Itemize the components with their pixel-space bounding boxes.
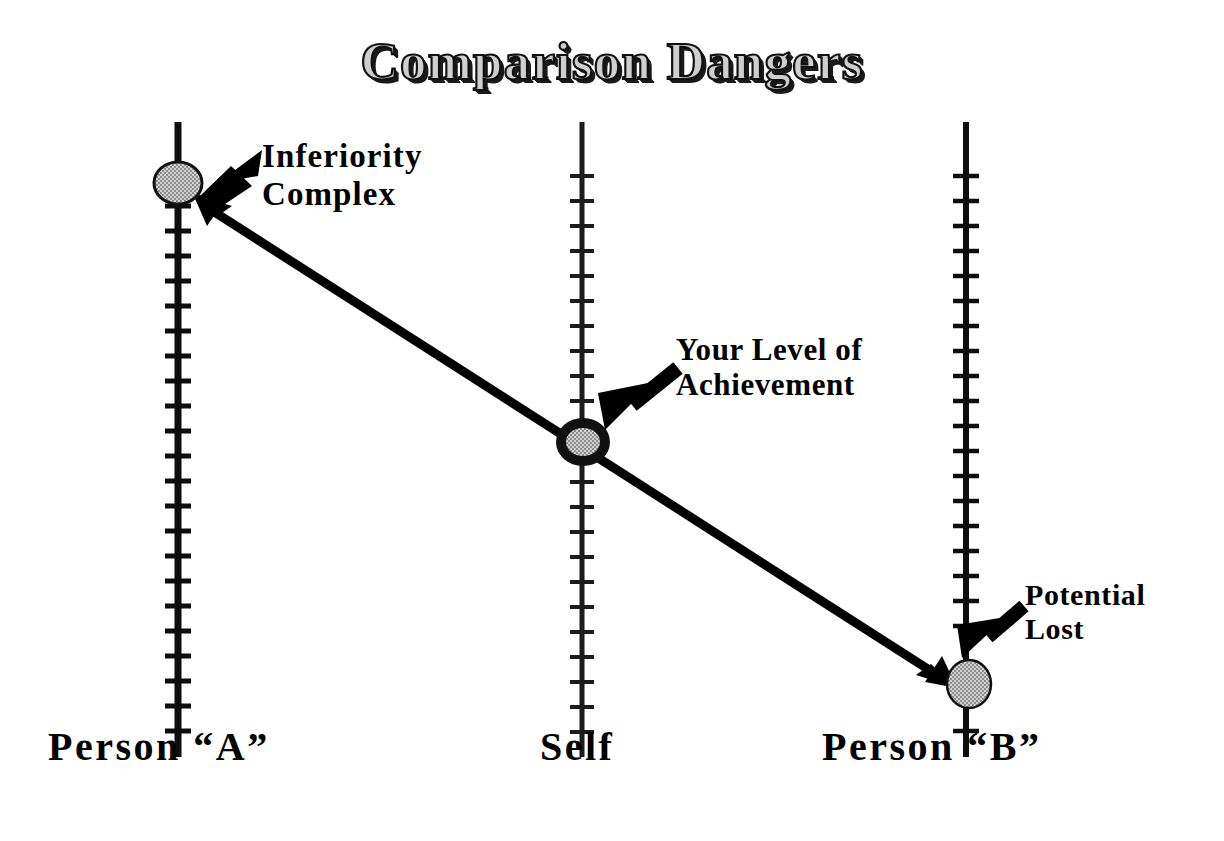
axis-caption-person-a: Person “A” xyxy=(48,723,270,770)
marker-inferiority-complex xyxy=(154,162,202,204)
marker-your-level-of-achievement xyxy=(556,418,610,466)
marker-potential-lost xyxy=(947,660,991,708)
pointer-arrow-inferiority xyxy=(200,150,262,208)
comparison-diagram xyxy=(0,0,1224,841)
axis-caption-person-b: Person “B” xyxy=(822,723,1041,770)
pointer-arrow-potential xyxy=(0,0,1024,658)
pointer-arrow-achievement xyxy=(598,368,678,430)
axis-caption-self: Self xyxy=(540,723,614,770)
annotation-your-level-of-achievement: Your Level of Achievement xyxy=(676,332,862,403)
diagram-canvas: Comparison Dangers xyxy=(0,0,1224,841)
annotation-inferiority-complex: Inferiority Complex xyxy=(262,138,423,213)
axis-person-a xyxy=(165,122,191,757)
annotation-potential-lost: Potential Lost xyxy=(1025,578,1145,646)
